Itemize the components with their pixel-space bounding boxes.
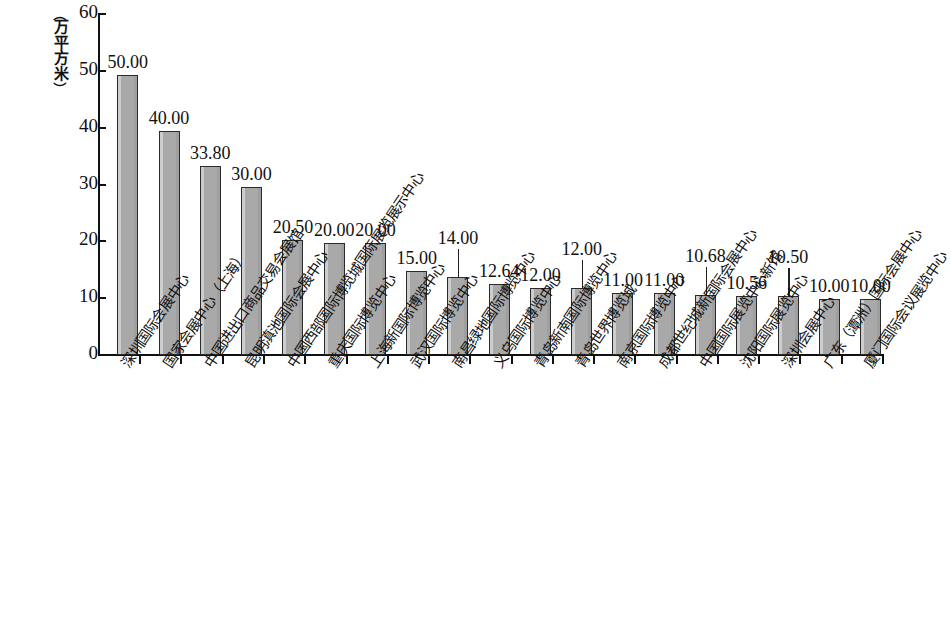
x-axis-category-label: 厦门国际会议展览中心 — [862, 249, 950, 370]
x-axis-category-label: 上海新国际博览中心 — [367, 261, 448, 371]
